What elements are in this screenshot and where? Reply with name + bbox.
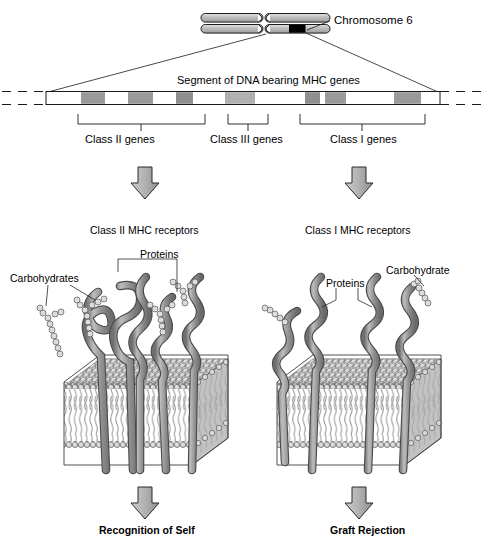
class-i-carbohydrate-label: Carbohydrate [386, 264, 450, 276]
chromosome-label: Chromosome 6 [334, 14, 413, 26]
recognition-of-self-outcome: Recognition of Self [99, 524, 195, 536]
dna-segment-label: Segment of DNA bearing MHC genes [177, 74, 360, 86]
class-i-proteins-label: Proteins [326, 277, 365, 289]
class-ii-genes-label: Class II genes [85, 133, 155, 145]
class-i-genes-label: Class I genes [330, 133, 397, 145]
class-i-receptors-heading: Class I MHC receptors [305, 224, 411, 236]
chromosome-6-illustration [201, 14, 330, 34]
flow-arrow-top-right [345, 167, 373, 199]
class-ii-receptors-heading: Class II MHC receptors [90, 224, 199, 236]
graft-rejection-outcome: Graft Rejection [330, 524, 405, 536]
class-ii-carbohydrates-label: Carbohydrates [10, 272, 79, 284]
lipid-bilayer-right [277, 355, 442, 465]
class-i-membrane-illustration [262, 275, 442, 470]
flow-arrow-bottom-right [345, 487, 373, 519]
class-ii-membrane-illustration [37, 259, 229, 470]
diagram-canvas: Chromosome 6 Segment of DNA bearing MHC … [0, 0, 486, 546]
dna-segment-bar [2, 92, 484, 105]
gene-class-brackets [78, 114, 425, 131]
flow-arrow-bottom-left [131, 487, 159, 519]
flow-arrow-top-left [131, 167, 159, 199]
class-ii-proteins-label: Proteins [140, 248, 179, 260]
class-iii-genes-label: Class III genes [210, 133, 283, 145]
